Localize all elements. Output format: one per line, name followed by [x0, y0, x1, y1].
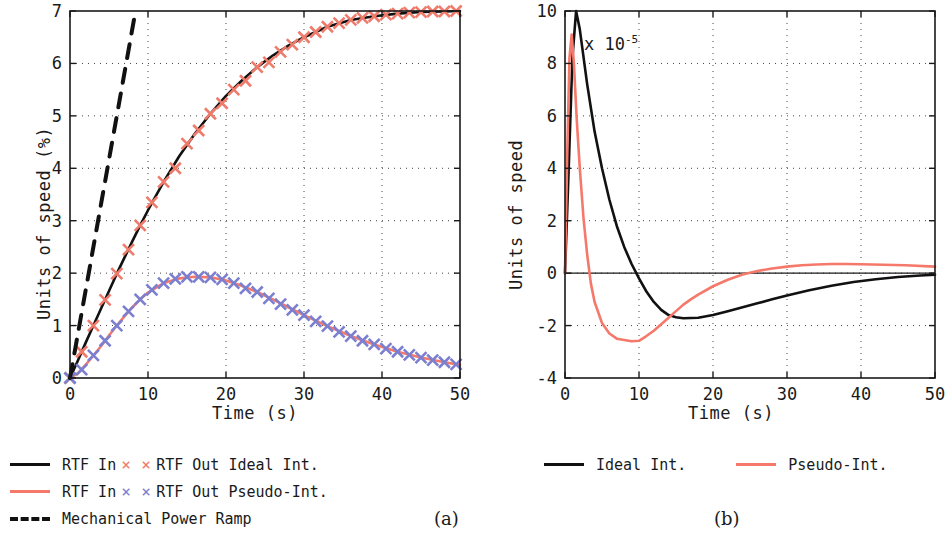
solid-line-red-icon	[10, 490, 50, 493]
series-markers	[65, 6, 462, 384]
x-tick-label: 10	[123, 384, 173, 404]
solid-line-red-icon	[736, 463, 776, 466]
legend-label: Mechanical Power Ramp	[62, 510, 252, 528]
y-tick-label: 0	[22, 368, 62, 388]
x-tick-label: 30	[762, 384, 812, 404]
y-tick-label: 2	[517, 211, 557, 231]
x-tick-label: 30	[279, 384, 329, 404]
legend-row: RTF In × × RTF Out Ideal Int.	[10, 451, 328, 478]
legend-row: Ideal Int. Pseudo-Int.	[544, 451, 888, 478]
axes-frame	[565, 11, 935, 378]
y-tick-label: 7	[22, 1, 62, 21]
legend-row: Mechanical Power Ramp	[10, 505, 328, 532]
panel-a-x-axis-label: Time (s)	[212, 403, 298, 423]
panel-b: Units of speed x 10-5 Time (s) 010203040…	[476, 0, 952, 440]
legend-label: Pseudo-Int.	[788, 456, 887, 474]
legend-panel-a: RTF In × × RTF Out Ideal Int. RTF In × ×…	[10, 451, 328, 532]
y-tick-label: -2	[517, 316, 557, 336]
x-marker-blue-icon: ×	[136, 482, 156, 501]
legend-row: RTF In × × RTF Out Pseudo-Int.	[10, 478, 328, 505]
legend-label: RTF Out Pseudo-Int.	[156, 483, 328, 501]
subplot-label-a: (a)	[434, 508, 459, 529]
solid-line-black-icon	[544, 463, 584, 466]
x-tick-label: 40	[357, 384, 407, 404]
legend-label: Ideal Int.	[596, 456, 686, 474]
exponent-prefix: x 10	[584, 34, 625, 54]
dashed-line-black-icon	[10, 517, 50, 521]
x-tick-label: 50	[910, 384, 952, 404]
x-tick-label: 40	[836, 384, 886, 404]
y-tick-label: 4	[22, 158, 62, 178]
x-marker-red-icon: ×	[116, 455, 136, 474]
figure-root: Units of speed (%) Time (s) 010203040500…	[0, 0, 952, 537]
panel-b-exponent-annotation: x 10-5	[584, 33, 638, 54]
legend-label: RTF Out Ideal Int.	[156, 456, 319, 474]
y-tick-label: 3	[22, 211, 62, 231]
legend-panel-b: Ideal Int. Pseudo-Int.	[544, 451, 888, 478]
y-tick-label: 6	[517, 106, 557, 126]
x-tick-label: 10	[614, 384, 664, 404]
series-line	[70, 11, 136, 378]
x-tick-label: 20	[201, 384, 251, 404]
panel-a: Units of speed (%) Time (s) 010203040500…	[0, 0, 476, 440]
solid-line-black-icon	[10, 463, 50, 466]
series-line	[70, 277, 460, 378]
y-tick-label: 10	[517, 1, 557, 21]
series-line	[565, 35, 935, 342]
y-tick-label: 1	[22, 316, 62, 336]
y-tick-label: 4	[517, 158, 557, 178]
series-markers	[65, 271, 462, 383]
y-tick-label: 2	[22, 263, 62, 283]
x-marker-red-icon: ×	[136, 455, 156, 474]
legend-label: RTF In	[62, 456, 116, 474]
y-tick-label: 0	[517, 263, 557, 283]
x-tick-label: 20	[688, 384, 738, 404]
y-tick-label: 6	[22, 53, 62, 73]
subplot-label-b: (b)	[714, 508, 740, 529]
panel-a-plot-area	[0, 0, 476, 400]
y-tick-label: 5	[22, 106, 62, 126]
panel-b-x-axis-label: Time (s)	[688, 403, 774, 423]
exponent-power: -5	[625, 33, 638, 46]
x-marker-blue-icon: ×	[116, 482, 136, 501]
y-tick-label: -4	[517, 368, 557, 388]
legend-label: RTF In	[62, 483, 116, 501]
y-tick-label: 8	[517, 53, 557, 73]
